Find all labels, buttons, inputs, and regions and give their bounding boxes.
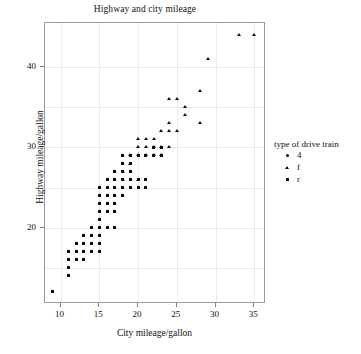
data-point [106, 194, 109, 197]
data-point [175, 129, 179, 132]
data-point [113, 170, 116, 173]
data-point [67, 258, 70, 261]
x-tick-mark [137, 303, 138, 307]
data-point [98, 250, 101, 253]
plot-panel [44, 22, 265, 303]
data-point [106, 186, 109, 189]
data-point [90, 234, 93, 237]
data-point [159, 145, 163, 148]
data-point [75, 250, 78, 253]
data-point [144, 178, 147, 181]
data-point [137, 186, 140, 189]
x-tick-mark [98, 303, 99, 307]
data-point [167, 145, 171, 148]
legend-title: type of drive train [274, 139, 360, 149]
data-point [106, 178, 109, 181]
circle-marker-icon [282, 154, 292, 157]
data-point [98, 234, 101, 237]
data-point [67, 266, 70, 269]
data-point [237, 33, 241, 36]
data-point [183, 105, 187, 108]
data-point [128, 162, 132, 165]
x-axis-label: City mileage/gallon [44, 328, 265, 338]
legend-entry-label: r [297, 174, 300, 184]
data-point [136, 145, 140, 148]
data-points-layer [45, 23, 264, 302]
data-point [121, 154, 124, 157]
data-point [67, 274, 70, 277]
data-point [152, 145, 156, 148]
data-point [144, 137, 148, 140]
data-point [98, 194, 101, 197]
data-point [136, 137, 140, 140]
legend-entry-label: f [297, 162, 300, 172]
data-point [198, 121, 202, 124]
data-point [98, 210, 101, 213]
data-point [82, 242, 85, 245]
y-tick-label: 40 [14, 61, 36, 71]
data-point [121, 162, 124, 165]
data-point [82, 250, 85, 253]
data-point [159, 129, 163, 132]
data-point [136, 178, 140, 181]
x-tick-mark [60, 303, 61, 307]
data-point [152, 153, 156, 156]
data-point [144, 186, 147, 189]
legend-entry[interactable]: r [274, 173, 360, 185]
data-point [167, 97, 171, 100]
y-tick-label: 30 [14, 141, 36, 151]
page-title: Highway and city mileage [0, 4, 290, 14]
data-point [121, 194, 124, 197]
legend-entries: 4fr [274, 149, 360, 185]
x-tick-label: 10 [45, 309, 75, 319]
data-point [51, 290, 54, 293]
data-point [113, 186, 116, 189]
data-point [98, 242, 101, 245]
data-point [90, 250, 93, 253]
legend: type of drive train 4fr [274, 139, 360, 185]
x-tick-label: 20 [122, 309, 152, 319]
data-point [75, 258, 78, 261]
data-point [206, 57, 210, 60]
x-tick-mark [253, 303, 254, 307]
data-point [175, 97, 179, 100]
data-point [129, 178, 132, 181]
data-point [106, 210, 109, 213]
x-tick-label: 25 [161, 309, 191, 319]
y-tick-label: 20 [14, 222, 36, 232]
data-point [75, 242, 78, 245]
data-point [121, 186, 124, 189]
data-point [144, 153, 148, 156]
legend-entry-label: 4 [297, 150, 302, 160]
data-point [98, 202, 101, 205]
data-point [198, 89, 202, 92]
legend-entry[interactable]: 4 [274, 149, 360, 161]
data-point [90, 242, 93, 245]
data-point [136, 153, 140, 156]
data-point [129, 170, 132, 173]
data-point [113, 226, 116, 229]
legend-entry[interactable]: f [274, 161, 360, 173]
x-tick-mark [176, 303, 177, 307]
data-point [82, 258, 85, 261]
data-point [128, 153, 132, 156]
data-point [152, 137, 156, 140]
data-point [129, 186, 132, 189]
data-point [98, 218, 101, 221]
data-point [167, 121, 171, 124]
x-tick-label: 35 [238, 309, 268, 319]
x-tick-label: 30 [200, 309, 230, 319]
data-point [252, 33, 256, 36]
data-point [67, 250, 70, 253]
x-tick-label: 15 [83, 309, 113, 319]
x-tick-mark [215, 303, 216, 307]
data-point [106, 202, 109, 205]
data-point [144, 145, 148, 148]
data-point [98, 186, 101, 189]
data-point [113, 194, 116, 197]
data-point [98, 226, 101, 229]
data-point [183, 113, 187, 116]
y-axis-label: Highway mileage/gallon [35, 57, 45, 257]
data-point [167, 129, 171, 132]
data-point [159, 153, 163, 156]
